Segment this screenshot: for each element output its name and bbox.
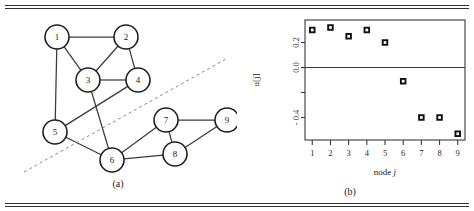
graph-node-8[interactable]: 8 [163,142,187,166]
x-tick-label-2: 2 [328,148,332,158]
marker-square-7 [419,115,424,120]
x-tick-label-5: 5 [383,148,387,158]
marker-square-4 [365,28,370,33]
graph-node-1[interactable]: 1 [45,25,69,49]
graph-node-2[interactable]: 2 [114,25,138,49]
caption-b: (b) [320,186,380,197]
x-axis-ticks: 123456789 [310,140,460,158]
graph-edge-5-6 [66,137,101,154]
eigenvector-scatter-chart: 0.20.0- 0.4123456789node ju[j] [237,8,474,193]
marker-square-5 [383,40,388,45]
graph-edge-6-7 [122,127,157,153]
panel-a-graph: 123456789 [0,8,237,203]
data-point-5[interactable] [383,40,388,45]
x-tick-label-6: 6 [401,148,405,158]
figure-frame: 123456789 (a) 0.20.0- 0.4123456789node j… [0,0,474,211]
caption-a: (a) [88,178,148,189]
graph-edge-6-8 [124,155,163,159]
graph-diagram: 123456789 [0,8,237,183]
x-axis-title-var: j [393,167,397,177]
data-point-7[interactable] [419,115,424,120]
graph-node-9[interactable]: 9 [215,108,237,132]
node-label-1: 1 [55,32,60,42]
x-tick-label-3: 3 [347,148,351,158]
marker-square-3 [346,34,351,39]
graph-node-3[interactable]: 3 [76,68,100,92]
y-tick-label-0: 0.2 [291,37,301,48]
graph-edge-1-5 [55,49,56,120]
graph-edge-7-8 [169,132,172,143]
graph-edge-2-4 [129,49,135,69]
graph-edge-2-3 [96,46,118,71]
node-label-9: 9 [225,115,230,125]
marker-square-8 [437,115,442,120]
node-label-4: 4 [136,75,141,85]
marker-square-9 [455,131,460,136]
data-point-2[interactable] [328,25,333,30]
node-label-3: 3 [86,75,91,85]
graph-node-7[interactable]: 7 [154,108,178,132]
node-label-7: 7 [164,115,169,125]
graph-node-5[interactable]: 5 [43,120,67,144]
plot-frame [305,20,465,140]
data-point-6[interactable] [401,79,406,84]
marker-square-2 [328,25,333,30]
partition-dashed-line [24,59,226,172]
node-label-5: 5 [53,127,58,137]
graph-edge-4-5 [65,86,128,125]
graph-node-4[interactable]: 4 [126,68,150,92]
y-tick-label-1: 0.0 [291,62,301,73]
node-label-6: 6 [110,155,115,165]
graph-edge-8-9 [185,127,217,148]
x-tick-label-9: 9 [456,148,460,158]
bottom-rule-1 [5,203,469,204]
x-tick-label-8: 8 [437,148,441,158]
node-label-2: 2 [124,32,129,42]
y-axis-ticks: 0.20.0- 0.4 [291,37,305,125]
data-point-8[interactable] [437,115,442,120]
graph-node-6[interactable]: 6 [100,148,124,172]
graph-nodes: 123456789 [43,25,237,172]
x-axis-title: node j [374,167,397,177]
x-tick-label-4: 4 [365,148,370,158]
data-point-1[interactable] [310,28,315,33]
panel-b-chart: 0.20.0- 0.4123456789node ju[j] [237,8,474,203]
node-label-8: 8 [173,149,178,159]
data-point-3[interactable] [346,34,351,39]
data-point-4[interactable] [365,28,370,33]
data-point-9[interactable] [455,131,460,136]
marker-square-1 [310,28,315,33]
y-tick-label-3: - 0.4 [291,109,301,125]
x-axis-title-word: node [374,167,394,177]
top-rule-1 [5,5,469,6]
y-axis-title: u[j] [251,74,261,87]
graph-edges [55,37,217,159]
x-tick-label-1: 1 [310,148,314,158]
graph-edge-1-3 [64,47,81,71]
marker-square-6 [401,79,406,84]
x-tick-label-7: 7 [419,148,423,158]
bottom-rule-2 [5,206,469,207]
